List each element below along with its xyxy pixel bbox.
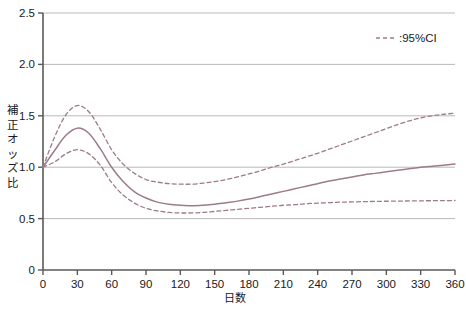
x-tick-label: 270: [342, 278, 361, 290]
x-tick-label: 60: [105, 278, 118, 290]
x-tick-label: 150: [205, 278, 224, 290]
chart-canvas: 0306090120150180210240270300330360 00.51…: [0, 0, 466, 316]
y-axis-title-char: オ: [7, 132, 18, 146]
x-tick-label: 120: [171, 278, 190, 290]
y-axis-title-char: 比: [7, 176, 18, 190]
y-tick-label: 1.5: [19, 110, 35, 122]
y-axis-title-char: 補: [7, 103, 19, 117]
y-axis-title-char: ズ: [7, 161, 18, 175]
x-tick-label: 210: [274, 278, 293, 290]
x-tick-label: 300: [377, 278, 396, 290]
x-tick-label: 240: [308, 278, 327, 290]
x-tick-label: 330: [411, 278, 430, 290]
x-tick-label: 0: [40, 278, 46, 290]
legend-label-95ci: :95%CI: [399, 32, 437, 44]
x-axis-title: 日数: [224, 292, 246, 305]
y-tick-label: 1.0: [19, 161, 35, 173]
y-tick-label: 0.5: [19, 213, 35, 225]
y-tick-label: 2.5: [19, 7, 35, 19]
x-tick-label: 360: [445, 278, 464, 290]
y-tick-label: 2.0: [19, 58, 35, 70]
x-tick-label: 90: [140, 278, 153, 290]
y-axis-title-char: 正: [7, 118, 18, 132]
odds-ratio-chart: 0306090120150180210240270300330360 00.51…: [0, 0, 466, 316]
x-tick-label: 30: [71, 278, 84, 290]
chart-background: [0, 0, 466, 316]
y-tick-label: 0: [29, 264, 35, 276]
x-tick-label: 180: [239, 278, 258, 290]
y-axis-title: 補正オッズ比: [7, 103, 19, 190]
y-axis-title-char: ッ: [7, 147, 18, 161]
